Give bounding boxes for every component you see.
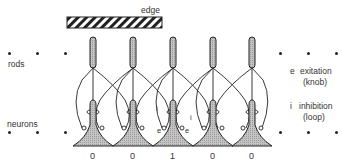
rods-label: rods [8,60,25,69]
excitation-annotation-left: e [157,126,161,135]
ellipsis-dot [307,131,310,134]
excitation-symbol: e [290,67,295,76]
rod-4 [210,37,216,68]
output-value-1: 0 [90,151,95,161]
edge-bar [67,17,162,28]
edge-label: edge [141,6,160,15]
ellipsis-dot [335,52,338,55]
output-value-5: 0 [249,151,254,161]
ellipsis-dot [279,52,282,55]
ellipsis-dot [279,131,282,134]
excitation-sub: (knob) [303,78,327,87]
ellipsis-dot [64,131,67,134]
neuron-4 [193,100,233,146]
inhibition-label: inhibition [299,102,333,111]
ellipsis-dot [8,131,11,134]
ellipsis-dot [36,131,39,134]
ellipsis-dot [64,52,67,55]
output-value-2: 0 [130,151,135,161]
ellipsis-dot [36,52,39,55]
lateral-inhibition-diagram [0,0,343,165]
ellipsis-dot [335,131,338,134]
inhibition-symbol: i [290,102,292,111]
output-value-4: 0 [210,151,215,161]
inhibition-annotation-right: i [190,113,192,122]
ellipsis-dot [8,52,11,55]
excitation-annotation-right: e [185,126,189,135]
inhibition-sub: (loop) [303,113,325,122]
neurons-group [73,100,272,146]
neuron-2 [113,100,153,146]
rod-1 [90,37,96,68]
neurons-label: neurons [7,120,38,129]
rod-2 [130,37,136,68]
ellipsis-dot [307,52,310,55]
inhibition-annotation-left: i [156,104,158,113]
rods-group [90,37,255,68]
neuron-5 [232,100,272,146]
excitation-label: exitation [300,67,332,76]
neuron-3 [153,100,193,146]
rod-3 [170,37,176,68]
neuron-1 [73,100,113,146]
output-value-3: 1 [170,151,175,161]
rod-5 [249,37,255,68]
